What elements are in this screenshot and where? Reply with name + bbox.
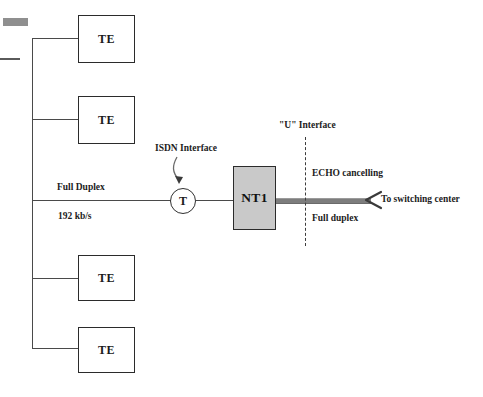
annotation-echo-cancelling: ECHO cancelling [312, 168, 383, 178]
te-1-drop-wire [32, 38, 79, 39]
te-3-drop-wire [32, 278, 79, 279]
te-box-3[interactable]: TE [78, 255, 135, 301]
annotation-full-duplex-bus: Full Duplex [57, 182, 105, 192]
t-to-nt1-wire [196, 200, 234, 201]
annotation-isdn-interface: ISDN Interface [155, 143, 217, 153]
s-bus-trunk [32, 38, 33, 348]
te-box-1-label: TE [98, 32, 115, 47]
u-interface-link [276, 198, 371, 204]
annotation-bus-rate: 192 kb/s [58, 211, 92, 221]
te-2-drop-wire [32, 119, 79, 120]
te-box-1[interactable]: TE [78, 15, 135, 63]
nt1-box-label: NT1 [241, 190, 267, 206]
isdn-interface-leader-arrowhead [175, 176, 183, 184]
page-artifact-rule [0, 58, 20, 60]
u-interface-boundary [305, 137, 306, 246]
te-box-2[interactable]: TE [78, 96, 135, 144]
te-box-4[interactable]: TE [78, 327, 135, 373]
nt1-box[interactable]: NT1 [233, 166, 276, 230]
annotation-to-switching-center: To switching center [381, 194, 460, 204]
isdn-interface-leader-line [173, 157, 179, 180]
page-artifact-chip [3, 18, 28, 26]
t-reference-point[interactable]: T [170, 188, 196, 214]
te-box-3-label: TE [98, 271, 115, 286]
te-4-drop-wire [32, 348, 79, 349]
t-reference-point-label: T [179, 194, 187, 209]
annotation-full-duplex-u: Full duplex [312, 213, 358, 223]
isdn-diagram-canvas: TE TE TE TE T NT1 ISDN Interface "U" Int… [0, 0, 483, 397]
te-box-2-label: TE [98, 113, 115, 128]
annotation-u-interface: "U" Interface [279, 120, 336, 130]
te-box-4-label: TE [98, 343, 115, 358]
s-bus-to-t-wire [32, 200, 171, 201]
